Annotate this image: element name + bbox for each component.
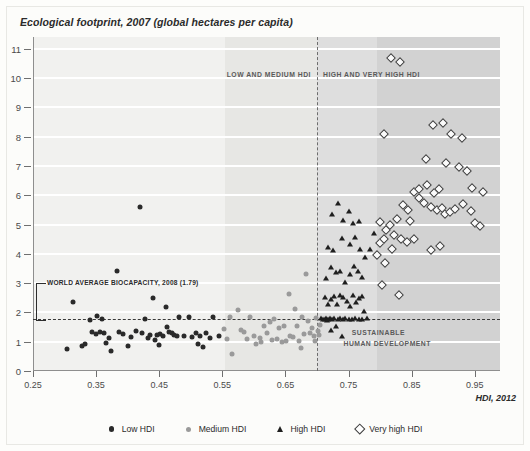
x-tick-label-0.65: 0.65 (277, 380, 295, 390)
data-point (164, 325, 169, 330)
y-tick-label-1: 1 (0, 336, 21, 347)
data-point (371, 230, 377, 235)
data-point (182, 333, 187, 338)
data-point (87, 318, 92, 323)
x-tick-label-0.85: 0.85 (403, 380, 421, 390)
data-point (225, 336, 230, 341)
data-point (221, 326, 226, 331)
data-point (316, 332, 321, 337)
data-point (318, 322, 323, 327)
y-tick-label-10: 10 (0, 73, 21, 84)
x-tick-0.75 (349, 371, 350, 377)
data-point (281, 323, 286, 328)
legend: Low HDIMedium HDIHigh HDIVery high HDI (0, 424, 530, 434)
legend-marker-icon (276, 425, 284, 433)
data-point (157, 343, 162, 348)
data-point (198, 334, 203, 339)
x-tick-label-0.75: 0.75 (340, 380, 358, 390)
data-point (244, 336, 249, 341)
y-tick-2 (24, 312, 31, 313)
x-tick-0.95 (475, 371, 476, 377)
x-axis-title: HDI, 2012 (475, 393, 516, 403)
data-point (335, 200, 341, 205)
data-point (143, 316, 148, 321)
gridline-y-2 (33, 311, 500, 313)
gridline-y-7 (33, 165, 500, 167)
data-point (210, 314, 215, 319)
data-point (161, 333, 166, 338)
figure-page: Ecological footprint, 2007 (global hecta… (0, 0, 530, 451)
data-point (296, 339, 301, 344)
y-tick-10 (24, 78, 31, 79)
data-point (177, 314, 182, 319)
data-point (190, 335, 195, 340)
y-tick-0 (24, 371, 31, 372)
data-point (323, 275, 329, 280)
x-axis-line (33, 370, 500, 371)
data-point (101, 330, 106, 335)
data-point (259, 339, 264, 344)
x-tick-0.85 (412, 371, 413, 377)
data-point (248, 315, 253, 320)
scatter-plot: 01234567891011 0.250.350.450.550.650.750… (33, 37, 500, 371)
data-point (340, 218, 346, 223)
gridline-y-5 (33, 224, 500, 226)
y-tick-8 (24, 137, 31, 138)
x-tick-0.45 (159, 371, 160, 377)
data-point (292, 307, 297, 312)
data-point (347, 303, 353, 308)
data-point (328, 327, 334, 332)
x-tick-0.35 (96, 371, 97, 377)
legend-item-high-hdi[interactable]: High HDI (276, 424, 325, 434)
sustainable-label-line2: HUMAN DEVELOPMENT (343, 340, 430, 347)
y-tick-1 (24, 342, 31, 343)
gridline-y-11 (33, 48, 500, 50)
data-point (128, 334, 133, 339)
data-point (333, 323, 339, 328)
legend-marker-icon (108, 425, 116, 433)
y-tick-11 (24, 49, 31, 50)
data-point (329, 212, 335, 217)
data-point (104, 341, 109, 346)
legend-item-medium-hdi[interactable]: Medium HDI (185, 424, 247, 434)
data-point (298, 346, 303, 351)
data-point (133, 328, 138, 333)
data-point (313, 339, 318, 344)
data-point (367, 247, 373, 252)
page-title: Ecological footprint, 2007 (global hecta… (20, 16, 293, 28)
data-point (200, 344, 205, 349)
data-point (139, 330, 144, 335)
x-tick-0.25 (33, 371, 34, 377)
legend-item-very-high-hdi[interactable]: Very high HDI (355, 424, 422, 434)
x-tick-label-0.35: 0.35 (87, 380, 105, 390)
data-point (347, 272, 353, 277)
data-point (359, 294, 365, 299)
y-tick-label-4: 4 (0, 248, 21, 259)
data-point (300, 315, 305, 320)
data-point (352, 234, 358, 239)
legend-label: Very high HDI (369, 424, 422, 434)
data-point (364, 316, 370, 321)
data-point (174, 334, 179, 339)
y-tick-5 (24, 225, 31, 226)
y-tick-label-11: 11 (0, 43, 21, 54)
data-point (272, 316, 277, 321)
data-point (294, 324, 299, 329)
x-tick-label-0.55: 0.55 (214, 380, 232, 390)
y-tick-label-2: 2 (0, 307, 21, 318)
data-point (163, 304, 168, 309)
data-point (109, 348, 114, 353)
data-point (65, 347, 70, 352)
legend-item-low-hdi[interactable]: Low HDI (108, 424, 155, 434)
data-point (337, 269, 343, 274)
data-point (152, 338, 157, 343)
data-point (356, 218, 362, 223)
data-point (150, 295, 155, 300)
data-point (334, 301, 340, 306)
data-point (230, 352, 235, 357)
data-point (306, 319, 311, 324)
y-tick-9 (24, 107, 31, 108)
data-point (261, 323, 266, 328)
data-point (137, 204, 142, 209)
data-point (251, 333, 256, 338)
